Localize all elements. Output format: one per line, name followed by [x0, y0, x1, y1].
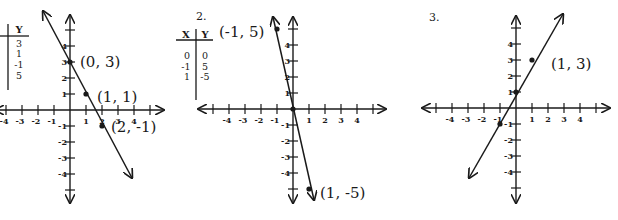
- point-label-1-3: (1, 3): [551, 55, 591, 73]
- y-tick-label: -3: [504, 151, 513, 161]
- x-tick-label: -2: [255, 115, 264, 125]
- x-tick-label: 2: [545, 114, 551, 124]
- x-tick-label: 3: [561, 114, 567, 124]
- data-point: [306, 186, 311, 191]
- y-tick-label: 2: [61, 73, 67, 83]
- y-tick-label: -4: [58, 169, 67, 179]
- data-point: [274, 26, 279, 31]
- table-2-cell: 0: [184, 50, 190, 61]
- x-tick-label: -3: [16, 116, 25, 126]
- table-1: Y 3 1 -1 5: [0, 24, 29, 90]
- problem-3-label: 3.: [429, 11, 440, 24]
- y-tick-label: -2: [504, 135, 513, 145]
- point-label-1-neg5: (1, -5): [320, 184, 365, 202]
- x-tick-label: 4: [577, 114, 583, 124]
- y-tick-label: 4: [284, 40, 290, 50]
- y-tick-label: -2: [58, 137, 67, 147]
- y-tick-label: 3: [507, 55, 513, 65]
- x-tick-label: -4: [223, 115, 232, 125]
- table-1-cell: -1: [14, 59, 23, 70]
- y-tick-label: -1: [58, 121, 67, 131]
- x-tick-label: -2: [32, 116, 41, 126]
- point-label-2-neg1: (2, -1): [111, 118, 156, 136]
- y-tick-label: -2: [281, 136, 290, 146]
- data-point: [529, 57, 534, 62]
- x-tick-label: 2: [322, 115, 328, 125]
- y-tick-label: -1: [281, 120, 290, 130]
- y-tick-label: -4: [504, 167, 513, 177]
- x-tick-label: 3: [338, 115, 344, 125]
- x-tick-label: 1: [306, 115, 312, 125]
- x-tick-label: 1: [529, 114, 535, 124]
- x-tick-label: -1: [48, 116, 57, 126]
- x-tick-label: -3: [462, 114, 471, 124]
- y-tick-label: -3: [281, 152, 290, 162]
- data-point: [290, 106, 295, 111]
- problem-2-label: 2.: [196, 10, 207, 23]
- x-tick-label: 4: [354, 115, 360, 125]
- y-tick-label: 4: [507, 39, 513, 49]
- y-tick-label: 1: [61, 89, 67, 99]
- table-2-cell: 0: [202, 50, 208, 61]
- point-label-0-3: (0, 3): [80, 53, 120, 71]
- y-tick-label: 3: [284, 56, 290, 66]
- x-tick-label: -4: [0, 116, 9, 126]
- point-label-1-1: (1, 1): [97, 88, 137, 106]
- table-1-cell: 5: [16, 70, 22, 81]
- data-point: [497, 121, 502, 126]
- x-tick-label: -2: [478, 114, 487, 124]
- x-tick-label: 1: [83, 116, 89, 126]
- data-point: [83, 91, 88, 96]
- table-2: X Y 0 0 -1 5 1 -5: [176, 29, 213, 100]
- graph-2: -4-3-2-11234-4-3-2-11234: [198, 17, 386, 203]
- y-tick-label: -4: [281, 168, 290, 178]
- point-label-neg1-5: (-1, 5): [219, 23, 264, 41]
- y-tick-label: 2: [507, 71, 513, 81]
- data-point: [99, 123, 104, 128]
- y-tick-label: 1: [507, 87, 513, 97]
- x-tick-label: -1: [271, 115, 280, 125]
- table-1-cell: 1: [16, 48, 22, 59]
- y-tick-label: -3: [58, 153, 67, 163]
- worksheet-graphs: -4-3-2-11234-4-3-2-11234 Y 3 1 -1 5 2. X…: [0, 0, 618, 220]
- data-point: [67, 59, 72, 64]
- x-tick-label: -4: [446, 114, 455, 124]
- table-1-header-y: Y: [14, 24, 23, 35]
- table-2-cell: 1: [184, 71, 190, 82]
- data-point: [513, 89, 518, 94]
- graph-3: -4-3-2-11234-4-3-2-11234: [422, 14, 610, 203]
- x-tick-label: -3: [239, 115, 248, 125]
- table-2-header-y: Y: [200, 29, 209, 40]
- y-tick-label: 3: [61, 57, 67, 67]
- table-2-cell: -5: [200, 71, 209, 82]
- graph-1: -4-3-2-11234-4-3-2-11234: [0, 11, 164, 203]
- y-tick-label: -1: [504, 119, 513, 129]
- table-2-header-x: X: [182, 29, 190, 40]
